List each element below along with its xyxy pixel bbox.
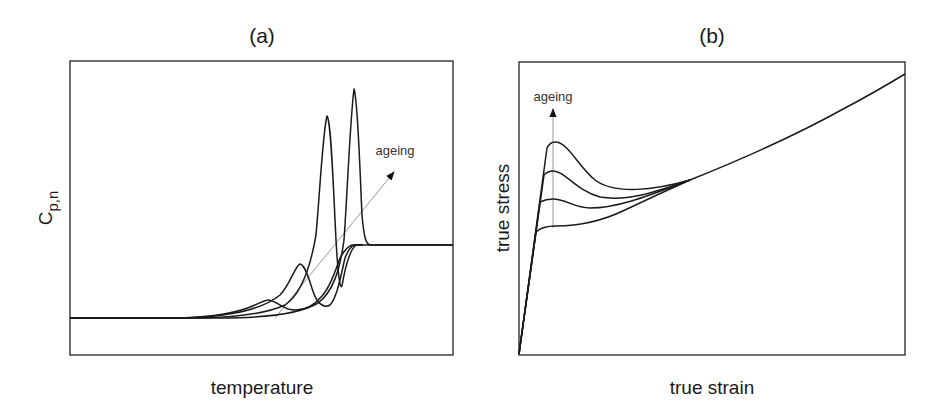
panel-b-title: (b) <box>699 24 725 47</box>
panel-b-xlabel: true strain <box>670 377 754 398</box>
panel-b-curve-2 <box>519 180 690 354</box>
panel-b-ylabel: true stress <box>492 164 513 253</box>
panel-b-curve-3 <box>519 171 690 354</box>
panel-b: (b) true stress true strain ageing <box>492 24 905 398</box>
panel-a-curve-4 <box>70 89 453 318</box>
panel-a-ylabel-main: C <box>35 212 56 226</box>
panel-a-curve-3 <box>70 116 363 318</box>
figure-canvas: (a) Cp,n temperature ageing (b) true str… <box>0 0 933 416</box>
panel-a-xlabel: temperature <box>211 377 313 398</box>
panel-a-plot-frame <box>70 61 453 355</box>
panel-a-ageing-label: ageing <box>375 143 414 158</box>
panel-a-curve-2 <box>70 245 363 318</box>
panel-a-ylabel: Cp,n <box>35 191 61 226</box>
panel-b-curve-1 <box>519 74 905 354</box>
svg-text:Cp,n: Cp,n <box>35 191 61 226</box>
panel-b-plot-frame <box>519 62 905 355</box>
panel-a-title: (a) <box>249 24 275 47</box>
panel-a-curve-1 <box>70 245 453 318</box>
panel-b-ageing-label: ageing <box>533 89 572 104</box>
panel-a-ylabel-sub: p,n <box>44 191 61 212</box>
panel-a: (a) Cp,n temperature ageing <box>35 24 453 398</box>
